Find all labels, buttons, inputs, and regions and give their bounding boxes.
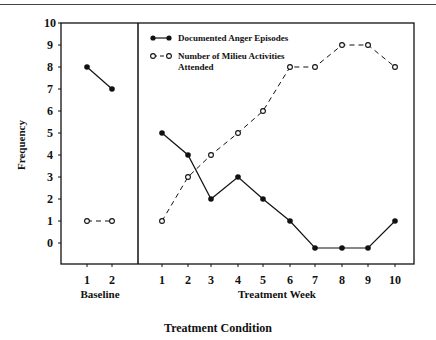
filled-circle-icon — [166, 35, 171, 40]
data-point — [366, 43, 371, 48]
data-point — [288, 65, 293, 70]
x-tick-label: 6 — [287, 273, 293, 287]
series-group — [84, 43, 398, 251]
data-point — [84, 64, 90, 70]
data-point — [312, 245, 318, 251]
y-tick-label: 6 — [47, 104, 53, 118]
data-point — [340, 43, 345, 48]
y-tick-label: 5 — [47, 126, 53, 140]
y-tick-label: 9 — [47, 38, 53, 52]
y-tick-label: 7 — [47, 82, 53, 96]
data-point — [159, 130, 165, 136]
filled-circle-icon — [150, 35, 155, 40]
data-point — [392, 218, 398, 224]
data-point — [287, 218, 293, 224]
data-point — [261, 109, 266, 114]
x-tick-label: 4 — [235, 273, 241, 287]
y-tick-label: 2 — [47, 192, 53, 206]
treatment-anger-line — [162, 133, 395, 248]
x-tick-label: 10 — [389, 273, 401, 287]
y-axis: 012345678910 — [44, 16, 61, 250]
legend: Documented Anger Episodes Number of Mili… — [150, 33, 288, 72]
data-point — [85, 219, 90, 224]
data-point — [393, 65, 398, 70]
x-tick-label: 9 — [365, 273, 371, 287]
data-point — [186, 175, 191, 180]
baseline-anger-line — [87, 67, 112, 89]
data-point — [260, 196, 266, 202]
y-tick-label: 3 — [47, 170, 53, 184]
x-tick-label: 5 — [260, 273, 266, 287]
legend-label-milieu-1: Number of Milieu Activities — [178, 51, 285, 61]
data-point — [160, 219, 165, 224]
y-axis-title: Frequency — [15, 120, 27, 170]
y-tick-label: 10 — [44, 16, 56, 30]
data-point — [235, 174, 241, 180]
data-point — [365, 245, 371, 251]
data-point — [339, 245, 345, 251]
data-point — [110, 219, 115, 224]
open-circle-icon — [151, 54, 156, 59]
data-point — [185, 152, 191, 158]
x-axis-title: Treatment Condition — [164, 321, 272, 335]
x-tick-label: 1 — [159, 273, 165, 287]
y-tick-label: 4 — [47, 148, 53, 162]
y-tick-label: 8 — [47, 60, 53, 74]
y-tick-label: 1 — [47, 214, 53, 228]
x-tick-label: 3 — [208, 273, 214, 287]
baseline-label: Baseline — [80, 288, 119, 300]
x-tick-label: 2 — [185, 273, 191, 287]
legend-label-anger: Documented Anger Episodes — [178, 33, 289, 43]
x-axis: 1212345678910 — [84, 264, 401, 287]
data-point — [208, 196, 214, 202]
x-tick-label: 2 — [109, 273, 115, 287]
treatment-week-label: Treatment Week — [238, 288, 317, 300]
data-point — [109, 86, 115, 92]
x-tick-label: 7 — [312, 273, 318, 287]
data-point — [313, 65, 318, 70]
legend-label-milieu-2: Attended — [178, 62, 214, 72]
x-tick-label: 8 — [339, 273, 345, 287]
line-chart: 012345678910 1212345678910 Documented An… — [0, 0, 436, 340]
y-tick-label: 0 — [47, 236, 53, 250]
x-tick-label: 1 — [84, 273, 90, 287]
data-point — [236, 131, 241, 136]
data-point — [209, 153, 214, 158]
open-circle-icon — [167, 54, 172, 59]
